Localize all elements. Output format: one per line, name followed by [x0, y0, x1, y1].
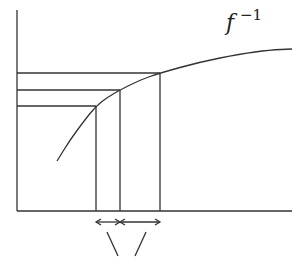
pointer-line-2 [135, 232, 146, 256]
function-label-superscript: −1 [240, 6, 262, 24]
pointer-line-1 [107, 232, 118, 256]
diagram-canvas [0, 0, 299, 266]
inverse-function-diagram: f −1 [0, 0, 299, 266]
function-label: f [226, 10, 234, 35]
inverse-function-curve [57, 49, 292, 161]
